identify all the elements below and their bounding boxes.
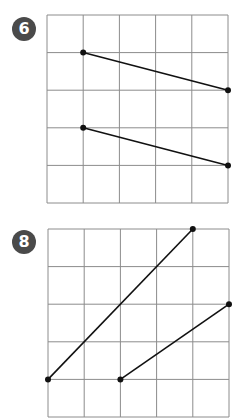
exercise-8: 8 (0, 210, 247, 420)
endpoint-dot (117, 376, 123, 382)
endpoint-dot (80, 125, 86, 131)
exercise-number-badge: 6 (12, 17, 36, 41)
dot-grid-6 (47, 15, 228, 203)
endpoint-dot (226, 301, 232, 307)
exercise-6: 6 (0, 0, 247, 210)
dot-grid-8 (48, 229, 229, 417)
endpoint-dot (80, 50, 86, 56)
exercise-number-badge: 8 (12, 230, 36, 254)
endpoint-dot (225, 162, 231, 168)
endpoint-dot (190, 226, 196, 232)
endpoint-dot (45, 376, 51, 382)
endpoint-dot (225, 87, 231, 93)
